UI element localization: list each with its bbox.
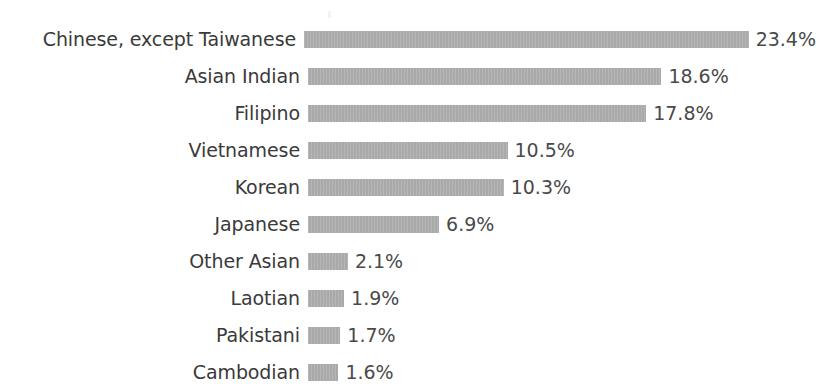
- bar: [308, 327, 340, 344]
- bar-track: 18.6%: [308, 61, 816, 91]
- category-label: Cambodian: [0, 363, 300, 382]
- bar: [308, 68, 661, 85]
- bar-track: 10.3%: [308, 172, 816, 202]
- bar-track: 1.9%: [308, 283, 816, 313]
- value-label: 18.6%: [668, 67, 728, 86]
- value-label: 10.3%: [511, 178, 571, 197]
- value-label: 23.4%: [756, 30, 816, 49]
- bar-track: 23.4%: [304, 24, 816, 54]
- bar: [308, 290, 344, 307]
- bar: [308, 216, 439, 233]
- value-label: 2.1%: [355, 252, 403, 271]
- bar-track: 6.9%: [308, 209, 816, 239]
- bar-row: Other Asian2.1%: [0, 246, 816, 276]
- category-label: Pakistani: [0, 326, 300, 345]
- category-label: Laotian: [0, 289, 300, 308]
- category-label: Filipino: [0, 104, 300, 123]
- bar: [308, 142, 508, 159]
- category-label: Other Asian: [0, 252, 300, 271]
- bar-row: Filipino17.8%: [0, 98, 816, 128]
- category-label: Chinese, except Taiwanese: [0, 30, 296, 49]
- category-label: Vietnamese: [0, 141, 300, 160]
- bar: [308, 364, 338, 381]
- horizontal-bar-chart: Chinese, except Taiwanese23.4%Asian Indi…: [0, 0, 816, 392]
- bar-row: Korean10.3%: [0, 172, 816, 202]
- bar: [304, 31, 749, 48]
- bar-row: Asian Indian18.6%: [0, 61, 816, 91]
- value-label: 6.9%: [446, 215, 494, 234]
- category-label: Asian Indian: [0, 67, 300, 86]
- value-label: 1.9%: [351, 289, 399, 308]
- bar-row: Japanese6.9%: [0, 209, 816, 239]
- value-label: 17.8%: [653, 104, 713, 123]
- bar-row: Chinese, except Taiwanese23.4%: [0, 24, 816, 54]
- bar-row: Pakistani1.7%: [0, 320, 816, 350]
- bar-row: Vietnamese10.5%: [0, 135, 816, 165]
- bar-track: 17.8%: [308, 98, 816, 128]
- bar: [308, 179, 504, 196]
- bar: [308, 105, 646, 122]
- value-label: 1.7%: [347, 326, 395, 345]
- scan-artifact: [328, 11, 331, 18]
- bar: [308, 253, 348, 270]
- bar-row: Laotian1.9%: [0, 283, 816, 313]
- category-label: Korean: [0, 178, 300, 197]
- bar-row: Cambodian1.6%: [0, 357, 816, 387]
- bar-track: 1.6%: [308, 357, 816, 387]
- bar-track: 1.7%: [308, 320, 816, 350]
- category-label: Japanese: [0, 215, 300, 234]
- value-label: 10.5%: [515, 141, 575, 160]
- bar-track: 2.1%: [308, 246, 816, 276]
- value-label: 1.6%: [345, 363, 393, 382]
- bar-track: 10.5%: [308, 135, 816, 165]
